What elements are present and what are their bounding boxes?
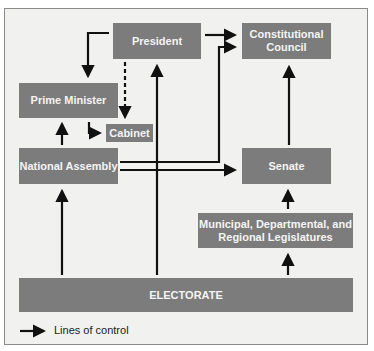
edge-pm-to-cabinet: [89, 122, 100, 133]
node-council-label-line2: Council: [266, 41, 306, 54]
node-cabinet: Cabinet: [106, 124, 153, 142]
node-cabinet-label: Cabinet: [109, 127, 149, 140]
edge-president-to-prime-minister: [88, 33, 109, 76]
node-constitutional-council: Constitutional Council: [242, 23, 331, 59]
node-electorate-label: ELECTORATE: [149, 289, 223, 302]
node-national-assembly-label: National Assembly: [19, 160, 117, 173]
node-local-label-line2: Regional Legislatures: [218, 231, 332, 244]
node-senate: Senate: [242, 148, 331, 184]
node-local-legislatures: Municipal, Departmental, and Regional Le…: [198, 213, 353, 248]
legend-label: Lines of control: [54, 324, 129, 336]
node-president-label: President: [132, 35, 182, 48]
node-local-label-line1: Municipal, Departmental, and: [199, 218, 352, 231]
node-president: President: [113, 23, 201, 59]
node-prime-minister: Prime Minister: [19, 83, 118, 118]
edge-assembly-to-council: [120, 47, 235, 162]
node-prime-minister-label: Prime Minister: [31, 94, 107, 107]
node-council-label-line1: Constitutional: [250, 28, 324, 41]
node-electorate: ELECTORATE: [19, 278, 353, 312]
node-national-assembly: National Assembly: [19, 148, 118, 184]
node-senate-label: Senate: [268, 160, 304, 173]
